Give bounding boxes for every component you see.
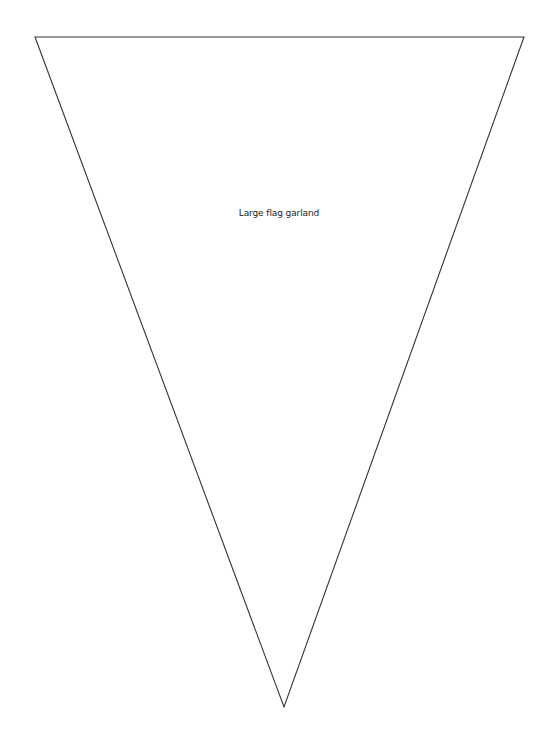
template-page: Large flag garland (0, 0, 558, 751)
flag-label: Large flag garland (0, 208, 558, 218)
flag-triangle-outline (0, 0, 558, 751)
